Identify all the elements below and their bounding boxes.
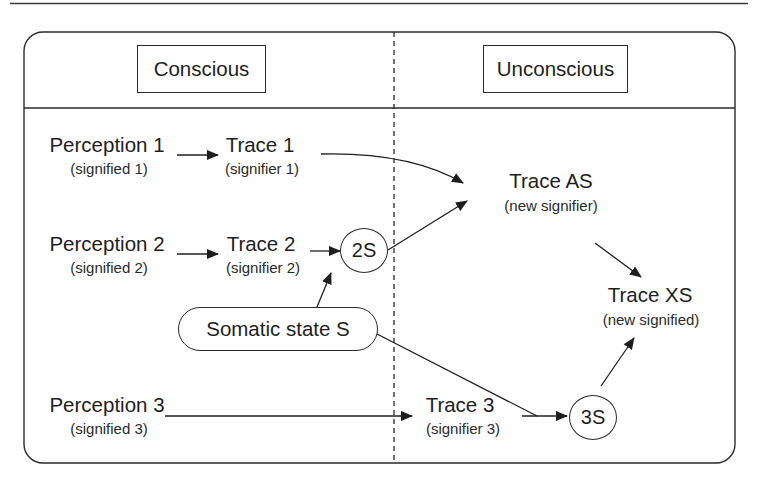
- node-2S-label: 2S: [352, 239, 376, 262]
- perception3-sub: (signified 3): [70, 420, 148, 437]
- traceAS-sub: (new signifier): [504, 197, 597, 214]
- arrow-somatic-to-2S: [317, 273, 331, 307]
- perception1-title: Perception 1: [49, 134, 164, 156]
- trace3-sub: (signifier 3): [426, 420, 500, 437]
- node-3S-label: 3S: [581, 406, 605, 429]
- arrow-trace1-to-traceAS: [321, 154, 463, 183]
- node-somatic-state: Somatic state S: [178, 307, 378, 351]
- arrow-2S-to-traceAS: [388, 201, 467, 250]
- perception2-title: Perception 2: [49, 233, 164, 255]
- trace1-sub: (signifier 1): [225, 160, 299, 177]
- node-2S: 2S: [340, 228, 388, 273]
- traceAS-title: Trace AS: [509, 170, 593, 192]
- arrow-3S-to-traceXS: [601, 338, 634, 386]
- traceXS-sub: (new signified): [603, 311, 700, 328]
- trace3-title: Trace 3: [426, 394, 495, 416]
- perception3-title: Perception 3: [49, 394, 164, 416]
- unconscious-header-label: Unconscious: [497, 57, 614, 81]
- node-somatic-state-label: Somatic state S: [206, 317, 350, 341]
- trace2-title: Trace 2: [227, 233, 296, 255]
- perception2-sub: (signified 2): [70, 259, 148, 276]
- arrow-traceAS-to-traceXS: [595, 243, 641, 277]
- conscious-header: Conscious: [137, 45, 266, 93]
- unconscious-header: Unconscious: [483, 45, 628, 93]
- trace2-sub: (signifier 2): [226, 259, 300, 276]
- conscious-header-label: Conscious: [154, 57, 250, 81]
- trace1-title: Trace 1: [226, 134, 295, 156]
- node-3S: 3S: [569, 395, 617, 440]
- perception1-sub: (signified 1): [70, 160, 148, 177]
- traceXS-title: Trace XS: [608, 284, 693, 306]
